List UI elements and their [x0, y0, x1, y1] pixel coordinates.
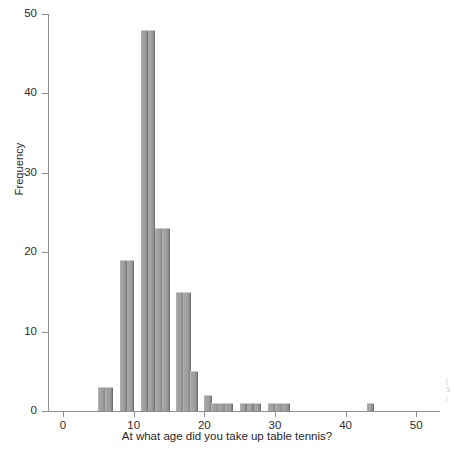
- plot-area: 0102030405001020304050: [0, 0, 454, 449]
- page-edge-artifact: |3l: [446, 376, 452, 404]
- y-axis-title: Frequency: [13, 109, 25, 229]
- y-tick-label-50: 50: [3, 8, 37, 20]
- y-tick-50: [42, 14, 48, 15]
- y-tick-label-20: 20: [3, 246, 37, 258]
- bar-age-14: [162, 228, 170, 411]
- y-tick-label-10: 10: [3, 326, 37, 338]
- bar-series: [0, 0, 454, 449]
- bar-age-31: [282, 403, 290, 411]
- bar-age-27: [254, 403, 262, 411]
- y-tick-30: [42, 173, 48, 174]
- bar-age-43: [367, 403, 375, 411]
- bar-age-9: [127, 260, 135, 411]
- x-axis-title: At what age did you take up table tennis…: [0, 430, 454, 442]
- x-tick-10: [134, 411, 135, 417]
- bar-age-18: [190, 371, 198, 411]
- y-tick-0: [42, 411, 48, 412]
- y-tick-20: [42, 252, 48, 253]
- x-tick-40: [346, 411, 347, 417]
- x-tick-0: [63, 411, 64, 417]
- histogram-chart: 0102030405001020304050 Frequency At what…: [0, 0, 454, 449]
- x-tick-20: [204, 411, 205, 417]
- bar-age-23: [225, 403, 233, 411]
- bar-age-6: [105, 387, 113, 411]
- x-tick-30: [275, 411, 276, 417]
- y-tick-40: [42, 93, 48, 94]
- y-tick-10: [42, 332, 48, 333]
- y-tick-label-0: 0: [3, 405, 37, 417]
- y-tick-label-40: 40: [3, 87, 37, 99]
- x-tick-50: [416, 411, 417, 417]
